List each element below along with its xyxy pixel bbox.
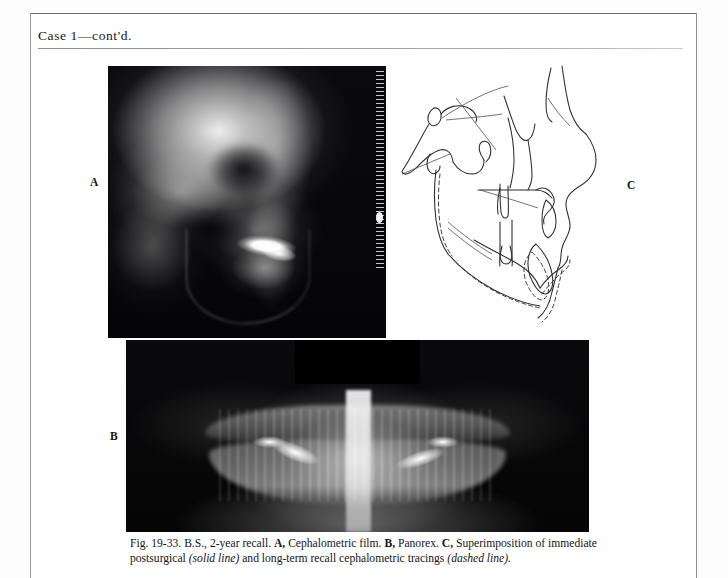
registration-line-2: [446, 114, 502, 120]
mandibular-ramus-posterior: [435, 170, 449, 254]
lower-lip-soft-tissue-recall: [542, 270, 562, 322]
mandibular-ramus-posterior-recall: [439, 174, 453, 256]
condyle-outline: [427, 154, 440, 174]
film-ruler-strip: [376, 71, 384, 271]
panel-letter-b: B: [110, 430, 118, 442]
amalgam-restoration-right-2: [427, 436, 459, 448]
caption-emphasis-solid-line: (solid line): [189, 552, 240, 565]
maxillary-molar: [500, 184, 508, 218]
caption-figure-number: Fig. 19-33.: [130, 537, 181, 550]
anterior-cranial-floor: [402, 124, 429, 174]
mandibular-canal: [448, 222, 492, 254]
amalgam-restoration-left-2: [253, 436, 285, 448]
nasal-bridge: [562, 66, 586, 134]
caption-label-b: B,: [384, 537, 395, 550]
cervical-spine-shadow: [346, 390, 371, 532]
palatal-plane: [478, 190, 552, 198]
sinus-void: [208, 142, 280, 196]
zygomatic-process: [528, 140, 532, 190]
collimation-block: [295, 340, 420, 384]
caption-text-c-2: and long-term recall cephalometric traci…: [242, 552, 444, 565]
panel-letter-a: A: [90, 176, 98, 188]
sella-outline: [428, 108, 441, 126]
figure-caption: Fig. 19-33. B.S., 2-year recall. A, Ceph…: [130, 536, 600, 567]
panel-b-panorex: [126, 340, 589, 532]
mandibular-canal-inferior: [448, 228, 492, 260]
caption-text-b: Panorex.: [398, 537, 439, 550]
running-head: Case 1—cont'd.: [38, 26, 678, 50]
panel-a-cephalometric-film: [108, 66, 386, 338]
running-head-text: Case 1—cont'd.: [38, 28, 132, 43]
caption-emphasis-dashed-line: (dashed line).: [447, 552, 511, 565]
cranial-base-anterior: [441, 106, 477, 122]
mandibular-inferior-border: [448, 254, 540, 306]
caption-text-a: Cephalometric film.: [288, 537, 381, 550]
header-rule: [38, 48, 683, 49]
panel-c-cephalometric-tracing: [396, 62, 696, 342]
orbital-floor: [416, 150, 453, 168]
film-reference-marker: [376, 212, 383, 223]
sn-plane: [456, 98, 496, 150]
maxillary-molar-root: [498, 188, 500, 214]
caption-label-c: C,: [442, 537, 453, 550]
pterygomaxillary-fissure: [479, 141, 491, 162]
mandibular-incisor-recall: [524, 252, 549, 300]
nasal-bone-superior: [546, 68, 552, 122]
panel-letter-c: C: [627, 179, 635, 191]
caption-subject: B.S., 2-year recall.: [184, 537, 271, 550]
registration-line-3: [402, 154, 450, 174]
posterior-maxilla-outline: [453, 160, 484, 174]
occlusal-plane: [480, 190, 538, 208]
maxillary-anterior-wall: [508, 118, 514, 188]
tracing-drawing: [396, 62, 696, 342]
page-canvas: Case 1—cont'd. A B: [0, 0, 728, 578]
soft-tissue-profile: [558, 134, 596, 268]
caption-label-a: A,: [274, 537, 285, 550]
frontal-bone-contour: [504, 96, 535, 141]
